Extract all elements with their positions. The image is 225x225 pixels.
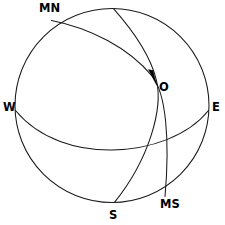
label-west: W — [3, 102, 16, 114]
label-magnetic-north: MN — [39, 3, 60, 15]
stereonet-svg — [0, 0, 225, 225]
label-magnetic-south: MS — [160, 199, 180, 211]
label-east: E — [212, 102, 220, 114]
primitive-circle — [15, 9, 209, 203]
stereonet-figure: MN W E O S MS — [0, 0, 225, 225]
label-origin-point: O — [159, 82, 169, 94]
label-south: S — [109, 210, 117, 222]
